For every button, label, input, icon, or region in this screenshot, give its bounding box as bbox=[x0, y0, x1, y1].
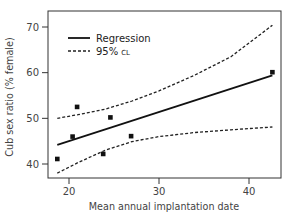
x-tick-label: 30 bbox=[153, 186, 166, 197]
y-tick-label: 50 bbox=[26, 113, 39, 124]
legend-ci-label: 95%CL bbox=[96, 46, 130, 57]
y-axis: 40506070 bbox=[26, 22, 48, 170]
data-point bbox=[270, 70, 275, 75]
data-point bbox=[55, 157, 60, 162]
y-tick-label: 40 bbox=[26, 159, 39, 170]
x-tick-label: 40 bbox=[243, 186, 256, 197]
legend-ci-main: 95% bbox=[96, 46, 118, 57]
y-tick-label: 60 bbox=[26, 67, 39, 78]
x-tick-label: 20 bbox=[63, 186, 76, 197]
x-axis-label: Mean annual implantation date bbox=[89, 201, 239, 212]
legend-regression-label: Regression bbox=[96, 33, 151, 44]
y-tick-label: 70 bbox=[26, 22, 39, 33]
regression-line bbox=[57, 75, 272, 144]
y-axis-label: Cub sex ratio (% female) bbox=[4, 37, 15, 156]
data-point bbox=[129, 134, 134, 139]
series-lines bbox=[57, 25, 272, 173]
confidence-limit-line bbox=[57, 25, 272, 118]
data-point bbox=[75, 105, 80, 110]
data-points bbox=[55, 70, 275, 161]
data-point bbox=[108, 115, 113, 120]
data-point bbox=[70, 134, 75, 139]
legend: Regression 95%CL bbox=[68, 33, 151, 57]
plot-frame bbox=[48, 11, 281, 178]
data-point bbox=[101, 152, 106, 157]
x-axis: 203040 bbox=[63, 178, 256, 197]
legend-ci-small: CL bbox=[121, 49, 130, 57]
scatter-chart: 40506070 203040 Regression 95%CL Mean an… bbox=[0, 0, 290, 219]
